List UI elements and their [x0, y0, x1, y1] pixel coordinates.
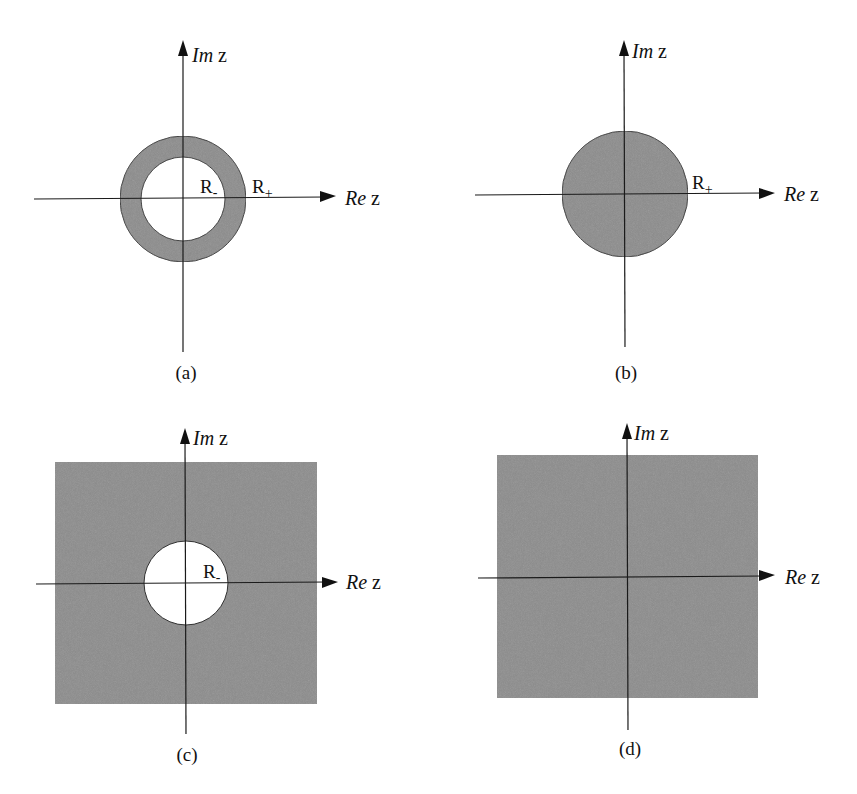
panel-caption-b: (b) — [615, 362, 637, 384]
imaginary-axis-label: Im z — [191, 44, 227, 66]
real-axis-label: Re z — [784, 566, 820, 588]
imaginary-axis-arrow-icon — [180, 428, 190, 444]
panel-caption-d: (d) — [619, 738, 641, 760]
imaginary-axis-label: Im z — [631, 40, 667, 62]
imaginary-axis-arrow-icon — [622, 423, 632, 439]
panel-caption-c: (c) — [176, 744, 197, 766]
panel-d: Im z Re z (d) — [478, 422, 820, 760]
real-axis-label: Re z — [344, 187, 380, 209]
real-axis-arrow-icon — [320, 191, 336, 202]
imaginary-axis-arrow-icon — [619, 40, 629, 56]
real-axis-arrow-icon — [759, 188, 775, 199]
real-axis-label: Re z — [783, 183, 819, 205]
real-axis-label: Re z — [345, 571, 381, 593]
imaginary-axis-label: Im z — [633, 422, 669, 444]
real-axis — [34, 197, 326, 199]
inner-radius-label: R- — [203, 561, 221, 585]
imaginary-axis — [624, 52, 625, 347]
panel-a: Im z Re z R- R+ (a) — [34, 40, 380, 384]
imaginary-axis-arrow-icon — [178, 40, 188, 56]
real-axis-arrow-icon — [322, 577, 338, 588]
panel-caption-a: (a) — [175, 362, 196, 384]
real-axis-arrow-icon — [759, 570, 775, 581]
roc-figure: Im z Re z R- R+ (a) Im z Re z R+ (b) Im … — [0, 0, 857, 794]
panel-b: Im z Re z R+ (b) — [475, 40, 819, 384]
inner-radius-label: R- — [200, 176, 218, 200]
panel-c: Im z Re z R- (c) — [36, 427, 381, 766]
imaginary-axis-label: Im z — [192, 427, 228, 449]
